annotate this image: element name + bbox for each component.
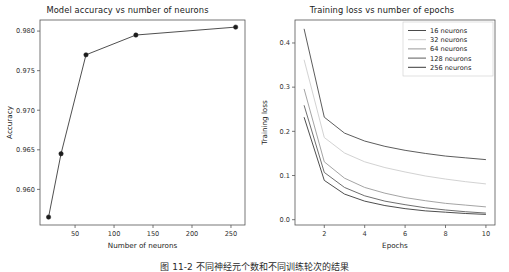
- y-tick-label: 0.4: [280, 39, 291, 47]
- accuracy-line: [49, 27, 236, 217]
- y-tick-label: 0.3: [280, 83, 291, 91]
- x-axis-label: Number of neurons: [108, 241, 178, 250]
- data-point-marker: [134, 33, 138, 37]
- y-tick-label: 0.0: [280, 216, 291, 224]
- legend-item-label: 16 neurons: [430, 27, 468, 35]
- y-tick-label: 0.2: [280, 128, 291, 136]
- legend-item-label: 64 neurons: [430, 45, 468, 53]
- figure-container: Model accuracy vs number of neurons 5010…: [0, 0, 509, 272]
- data-point-marker: [59, 152, 63, 156]
- y-axis-label: Accuracy: [5, 105, 14, 139]
- y-tick-label: 0.960: [16, 186, 35, 194]
- x-tick-label: 50: [71, 230, 79, 238]
- x-tick-label: 200: [186, 230, 199, 238]
- data-point-marker: [46, 215, 50, 219]
- loss-plot: 2468100.00.10.20.30.4EpochsTraining loss…: [255, 0, 509, 252]
- x-tick-label: 150: [147, 230, 160, 238]
- x-tick-label: 250: [225, 230, 238, 238]
- figure-caption-text: 图 11-2 不同神经元个数和不同训练轮次的结果: [0, 256, 509, 272]
- loss-series-line: [304, 105, 486, 213]
- data-point-marker: [233, 25, 237, 29]
- x-axis-label: Epochs: [382, 241, 408, 250]
- legend-item-label: 32 neurons: [430, 36, 468, 44]
- x-tick-label: 6: [403, 230, 407, 238]
- legend-item-label: 256 neurons: [430, 64, 472, 72]
- x-tick-label: 8: [443, 230, 447, 238]
- y-tick-label: 0.975: [16, 67, 35, 75]
- x-tick-label: 2: [322, 230, 326, 238]
- x-tick-label: 100: [108, 230, 121, 238]
- data-point-marker: [84, 53, 88, 57]
- loss-series-line: [304, 60, 486, 184]
- plot-frame: [40, 20, 245, 225]
- y-tick-label: 0.1: [280, 172, 291, 180]
- x-tick-label: 4: [363, 230, 367, 238]
- y-axis-label: Training loss: [260, 100, 269, 146]
- y-tick-label: 0.980: [16, 27, 35, 35]
- x-tick-label: 10: [482, 230, 490, 238]
- chart-panel-accuracy: Model accuracy vs number of neurons 5010…: [0, 0, 255, 252]
- chart-panel-loss: Training loss vs number of epochs 246810…: [255, 0, 509, 252]
- y-tick-label: 0.965: [16, 146, 35, 154]
- y-tick-label: 0.970: [16, 107, 35, 115]
- accuracy-plot: 501001502002500.9600.9650.9700.9750.980N…: [0, 0, 255, 252]
- figure-caption: 图 11-2 不同神经元个数和不同训练轮次的结果: [0, 252, 509, 272]
- legend-item-label: 128 neurons: [430, 55, 472, 63]
- loss-series-line: [304, 117, 486, 214]
